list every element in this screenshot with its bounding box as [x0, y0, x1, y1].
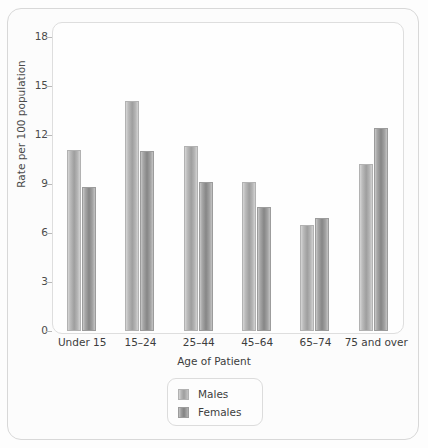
chart-legend: Males Females: [167, 378, 263, 426]
x-tick-label: 25–44: [170, 336, 228, 348]
y-tick-mark: [46, 331, 52, 332]
legend-swatch-females-icon: [178, 407, 189, 418]
bar-group: [286, 37, 344, 331]
legend-swatch-males-icon: [178, 389, 189, 400]
bars-area: [53, 37, 403, 331]
y-tick-mark: [46, 37, 52, 38]
y-tick-mark: [46, 233, 52, 234]
x-tick-label: 65–74: [286, 336, 344, 348]
y-tick-label: 12: [4, 129, 48, 140]
bar-females: [140, 151, 154, 331]
bar-females: [199, 182, 213, 331]
bar-females: [257, 207, 271, 331]
x-tick-label: 45–64: [228, 336, 286, 348]
x-tick-label: 15–24: [111, 336, 169, 348]
y-tick-mark: [46, 282, 52, 283]
bar-group: [170, 37, 228, 331]
chart-figure: Rate per 100 population 0369121518 Under…: [0, 0, 428, 448]
bar-group: [111, 37, 169, 331]
legend-label-males: Males: [198, 388, 228, 400]
y-tick-label: 6: [4, 227, 48, 238]
x-tick-label: Under 15: [53, 336, 111, 348]
x-axis-label: Age of Patient: [0, 355, 428, 367]
bar-males: [184, 146, 198, 331]
y-tick-mark: [46, 135, 52, 136]
bar-group: [345, 37, 403, 331]
y-tick-label: 18: [4, 31, 48, 42]
y-tick-label: 9: [4, 178, 48, 189]
legend-item-females: Females: [178, 404, 241, 420]
legend-label-females: Females: [198, 406, 241, 418]
bar-group: [228, 37, 286, 331]
bar-females: [82, 187, 96, 331]
bar-males: [300, 225, 314, 331]
bar-males: [242, 182, 256, 331]
y-tick-label: 15: [4, 80, 48, 91]
y-tick-mark: [46, 184, 52, 185]
bar-females: [374, 128, 388, 331]
y-tick-label: 0: [4, 325, 48, 336]
bar-males: [125, 101, 139, 331]
legend-item-males: Males: [178, 386, 228, 402]
x-tick-label: 75 and over: [345, 336, 403, 348]
bar-males: [359, 164, 373, 331]
bar-group: [53, 37, 111, 331]
bar-females: [315, 218, 329, 331]
bar-males: [67, 150, 81, 331]
y-axis-ticks: 0369121518: [0, 0, 48, 448]
y-tick-mark: [46, 86, 52, 87]
y-tick-label: 3: [4, 276, 48, 287]
